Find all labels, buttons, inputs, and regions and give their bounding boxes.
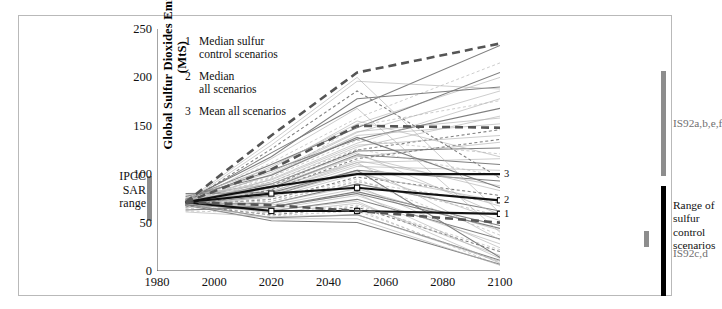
is92abef-range-bar [661, 71, 666, 176]
legend-number-3: 3 [185, 105, 199, 118]
is92cd-label: IS92c,d [673, 247, 708, 259]
legend-label-1: Median sulfur control scenarios [199, 35, 278, 62]
legend-number-1: 1 [185, 35, 199, 62]
plot-area: Global Sulfur Dioxides Emissions (MtS) 1… [157, 29, 500, 271]
y-axis-tick-label: 250 [133, 22, 152, 37]
x-axis-tick-label: 2100 [488, 275, 513, 290]
sulfur-control-range-label: Range of sulfur control scenarios [673, 199, 715, 252]
series-marker-1: 1 [504, 208, 509, 219]
series-marker-2: 2 [504, 194, 509, 205]
sulfur-control-range-bar [661, 186, 666, 296]
x-axis-tick-label: 2020 [259, 275, 284, 290]
chart-legend: 1 Median sulfur control scenarios 2 Medi… [185, 35, 286, 126]
legend-label-2: Median all scenarios [199, 70, 257, 97]
y-axis-tick-label: 150 [133, 118, 152, 133]
y-axis-tick-label: 200 [133, 70, 152, 85]
legend-number-2: 2 [185, 70, 199, 97]
legend-item-2: 2 Median all scenarios [185, 70, 286, 97]
x-axis-tick-label: 2000 [202, 275, 227, 290]
y-axis-tick-label: 50 [140, 215, 153, 230]
x-axis-tick-label: 2080 [430, 275, 455, 290]
is92cd-range-bar [644, 231, 649, 247]
legend-item-1: 1 Median sulfur control scenarios [185, 35, 286, 62]
x-axis-tick-label: 1980 [145, 275, 170, 290]
legend-label-3: Mean all scenarios [199, 105, 286, 118]
series-marker-3: 3 [504, 168, 509, 179]
is92abef-label: IS92a,b,e,f [673, 117, 722, 129]
legend-item-3: 3 Mean all scenarios [185, 105, 286, 118]
x-axis-tick-label: 2040 [316, 275, 341, 290]
x-axis-tick-label: 2060 [373, 275, 398, 290]
y-axis-tick-label: 100 [133, 167, 152, 182]
